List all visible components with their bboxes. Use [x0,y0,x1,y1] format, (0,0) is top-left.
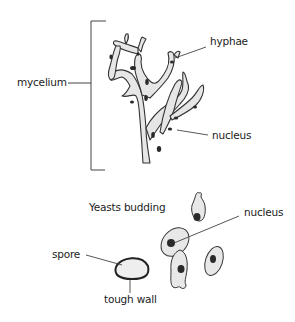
tough-wall-label: tough wall [104,293,157,305]
mycelium-bracket [68,21,106,170]
hyphae-nuclei [109,52,197,152]
spore-label: spore [52,248,80,260]
spore-shape [116,258,149,279]
yeasts-budding-title: Yeasts budding [89,201,165,213]
mycelium-label: mycelium [17,76,67,88]
spore-pointer-line [86,255,122,265]
nucleus-label-top: nucleus [212,129,251,141]
fungi-diagram [0,0,295,322]
nucleus-pointer-line [177,130,208,135]
yeast-cells [155,193,226,289]
hyphae-label: hyphae [210,35,248,47]
nucleus-label-yeast: nucleus [244,206,283,218]
